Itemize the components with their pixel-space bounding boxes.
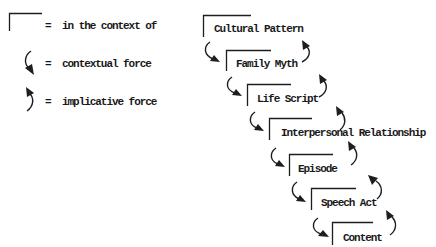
implicative-arrow-icon — [386, 210, 396, 235]
contextual-arrow-icon — [227, 77, 242, 96]
level-episode: Episode — [298, 163, 337, 175]
hierarchy-graphics — [0, 0, 436, 247]
level-interpersonal-relationship: Interpersonal Relationship — [281, 127, 425, 139]
contextual-arrow-icon — [313, 218, 329, 237]
level-cultural-pattern: Cultural Pattern — [214, 23, 303, 35]
implicative-arrow-icon — [302, 40, 310, 62]
level-family-myth: Family Myth — [236, 58, 297, 70]
implicative-arrow-icon — [368, 175, 381, 199]
contextual-arrow-icon — [292, 182, 306, 202]
implicative-arrow-icon — [348, 141, 357, 165]
contextual-arrow-icon — [205, 42, 220, 62]
contextual-arrow-icon — [271, 148, 285, 167]
level-speech-act: Speech Act — [321, 197, 377, 209]
level-content: Content — [343, 232, 382, 244]
level-life-script: Life Script — [257, 93, 318, 105]
implicative-arrow-icon — [319, 74, 327, 97]
contextual-arrow-icon — [250, 112, 264, 131]
